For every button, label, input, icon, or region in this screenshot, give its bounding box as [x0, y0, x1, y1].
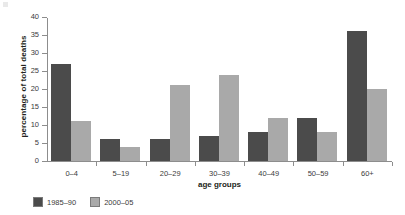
legend-label: 1985–90 — [47, 198, 76, 207]
plot-area: 0510152025303540 0–45–1920–2930–3940–495… — [47, 18, 392, 162]
bar — [297, 118, 317, 161]
bar — [347, 31, 367, 161]
legend-swatch — [33, 197, 43, 207]
chart-legend: 1985–902000–05 — [33, 197, 133, 207]
x-tick — [195, 162, 196, 166]
y-tick-label: 30 — [19, 48, 39, 57]
bar — [268, 118, 288, 161]
x-tick-label: 5–19 — [96, 169, 145, 178]
bar — [248, 132, 268, 161]
bar-chart-figure: percentage of total deaths 0510152025303… — [0, 0, 405, 215]
corner-artifact — [3, 2, 8, 7]
x-tick — [96, 162, 97, 166]
bar-group: 0–4 — [47, 18, 96, 161]
y-tick: 0 — [42, 161, 47, 162]
y-tick-label: 0 — [19, 156, 39, 165]
y-tick-label: 5 — [19, 138, 39, 147]
x-tick — [244, 162, 245, 166]
x-tick-label: 20–29 — [146, 169, 195, 178]
bar — [367, 89, 387, 161]
bar — [120, 147, 140, 161]
x-tick-label: 50–59 — [293, 169, 342, 178]
x-tick — [392, 162, 393, 166]
legend-label: 2000–05 — [104, 198, 133, 207]
bar — [100, 139, 120, 161]
x-axis-title: age groups — [47, 180, 392, 189]
bar — [219, 75, 239, 161]
bar — [71, 121, 91, 161]
bar — [150, 139, 170, 161]
x-tick-label: 40–49 — [244, 169, 293, 178]
bar-group: 20–29 — [146, 18, 195, 161]
y-tick-label: 15 — [19, 102, 39, 111]
bar — [51, 64, 71, 161]
y-tick-label: 40 — [19, 12, 39, 21]
x-tick — [343, 162, 344, 166]
bar-group: 30–39 — [195, 18, 244, 161]
legend-item: 2000–05 — [90, 197, 133, 207]
legend-item: 1985–90 — [33, 197, 76, 207]
y-tick-label: 10 — [19, 120, 39, 129]
bar — [170, 85, 190, 161]
bar-group: 50–59 — [293, 18, 342, 161]
bar — [317, 132, 337, 161]
x-tick-label: 30–39 — [195, 169, 244, 178]
bar-group: 60+ — [343, 18, 392, 161]
x-tick-label: 0–4 — [47, 169, 96, 178]
y-tick-label: 20 — [19, 84, 39, 93]
bar-group: 40–49 — [244, 18, 293, 161]
legend-swatch — [90, 197, 100, 207]
y-tick-label: 35 — [19, 30, 39, 39]
bar — [199, 136, 219, 161]
x-tick-label: 60+ — [343, 169, 392, 178]
bar-group: 5–19 — [96, 18, 145, 161]
x-tick — [293, 162, 294, 166]
x-tick — [146, 162, 147, 166]
x-axis-line — [47, 161, 392, 162]
y-tick-label: 25 — [19, 66, 39, 75]
